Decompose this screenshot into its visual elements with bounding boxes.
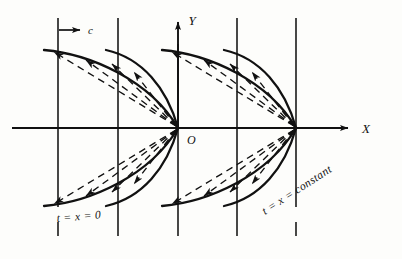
ray-1-u3 — [112, 64, 176, 126]
y-axis-label: Y — [188, 13, 197, 28]
speed-label: c — [88, 24, 93, 36]
figure-container: X Y O c t = x = 0 t = x = constant — [0, 0, 402, 259]
ray-2-l3 — [230, 130, 294, 192]
ray-1-l1 — [54, 130, 176, 204]
ray-1-u1 — [54, 52, 176, 126]
origin-label: O — [187, 133, 196, 147]
x-axis-label: X — [361, 121, 371, 136]
right-condition-label: t = x = constant — [260, 162, 335, 216]
ray-1-l3 — [112, 130, 176, 192]
ray-2-u3 — [230, 64, 294, 126]
ray-2-u1 — [172, 52, 294, 126]
left-condition-label: t = x = 0 — [56, 208, 102, 224]
axes — [12, 22, 348, 128]
wavefront-diagram: X Y O c t = x = 0 t = x = constant — [0, 0, 402, 259]
